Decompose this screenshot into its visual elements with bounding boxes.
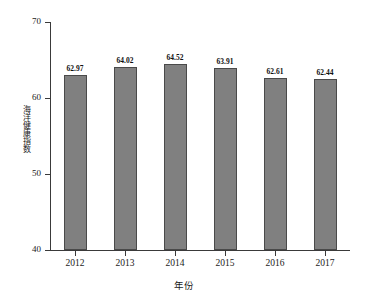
x-tick-label-2013: 2013	[105, 258, 145, 268]
bar-value-2012: 62.97	[53, 65, 97, 73]
bar-2017	[314, 79, 337, 250]
bar-value-2017: 62.44	[303, 69, 347, 77]
bar-value-2015: 63.91	[203, 58, 247, 66]
bar-value-2016: 62.61	[253, 68, 297, 76]
x-axis-title: 年份	[0, 278, 368, 292]
y-axis-title: 海洋健康指数	[20, 105, 30, 153]
y-tick-label-70: 70	[0, 17, 41, 26]
y-tick-label-50: 50	[0, 169, 41, 178]
bar-value-2014: 64.52	[153, 54, 197, 62]
x-tick-2013	[125, 251, 126, 256]
x-tick-2017	[325, 251, 326, 256]
bar-2016	[264, 78, 287, 250]
plot-area	[50, 22, 350, 250]
y-tick-label-40: 40	[0, 245, 41, 254]
bar-value-2013: 64.02	[103, 57, 147, 65]
x-tick-2016	[275, 251, 276, 256]
bar-2014	[164, 64, 187, 250]
bar-chart: 40506070 62.9764.0264.5263.9162.6162.44 …	[0, 0, 368, 301]
x-tick-2012	[75, 251, 76, 256]
bar-2013	[114, 67, 137, 250]
y-tick-40	[45, 250, 50, 251]
x-tick-label-2014: 2014	[155, 258, 195, 268]
bar-2015	[214, 68, 237, 250]
x-tick-label-2015: 2015	[205, 258, 245, 268]
x-tick-2015	[225, 251, 226, 256]
x-tick-label-2012: 2012	[55, 258, 95, 268]
x-tick-label-2017: 2017	[305, 258, 345, 268]
x-tick-2014	[175, 251, 176, 256]
bar-2012	[64, 75, 87, 250]
x-tick-label-2016: 2016	[255, 258, 295, 268]
y-tick-label-60: 60	[0, 93, 41, 102]
x-axis-line	[50, 250, 350, 251]
